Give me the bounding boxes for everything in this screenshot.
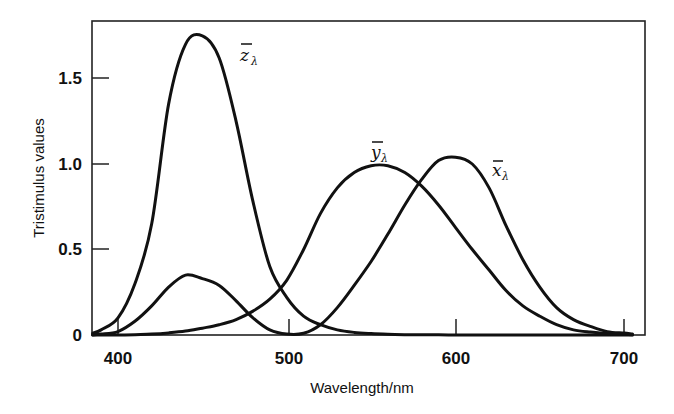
x-tick-label: 400 [104,349,132,368]
curve-y-bar [93,165,633,335]
curve-label-z-main: z [239,45,250,65]
x-tick-label: 700 [610,349,638,368]
curve-label-sub: λ [501,170,509,183]
curves [93,34,633,335]
curve-x-bar [93,157,633,335]
curve-label-z: z λ [239,44,258,68]
curve-label-x: x λ [492,160,509,183]
x-axis-title: Wavelength/nm [310,379,414,396]
y-tick-label: 1.0 [58,155,82,174]
tristimulus-chart: 1.5 1.0 0.5 0 Tristimulus values 400 500… [0,0,674,414]
y-tick-label: 0.5 [58,240,82,259]
y-axis-title: Tristimulus values [30,118,47,237]
curve-label-y: y λ [370,142,388,165]
plot-frame [92,21,645,335]
curve-label-y-main: y [370,142,381,162]
curve-label-sub: λ [380,152,388,165]
curve-z-bar [93,34,633,335]
y-axis: 1.5 1.0 0.5 0 Tristimulus values [30,69,109,345]
curve-label-x-main: x [492,160,502,180]
x-tick-label: 600 [442,349,470,368]
x-tick-label: 500 [275,349,303,368]
y-tick-label: 1.5 [58,69,82,88]
y-tick-label: 0 [73,326,82,345]
curve-label-sub: λ [250,55,258,68]
